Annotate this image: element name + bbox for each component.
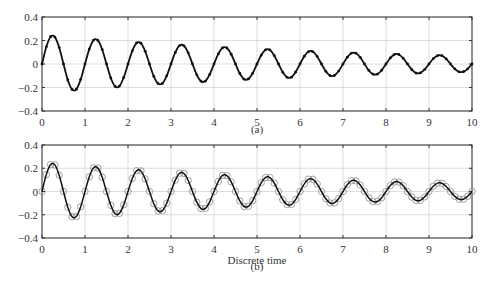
data-marker <box>101 48 104 51</box>
data-marker <box>316 55 319 58</box>
data-marker <box>402 57 405 60</box>
data-marker <box>66 79 69 82</box>
data-marker <box>419 72 422 75</box>
data-marker <box>359 56 362 59</box>
data-marker <box>234 63 237 66</box>
data-marker <box>299 63 302 66</box>
data-marker <box>385 63 388 66</box>
chart-figure: 012345678910−0.4−0.200.20.4(a) 012345678… <box>0 0 491 293</box>
data-marker <box>441 54 444 57</box>
data-marker <box>152 75 155 78</box>
x-tick-label: 7 <box>340 243 346 255</box>
y-tick-label: −0.4 <box>18 105 38 117</box>
data-marker <box>466 67 469 70</box>
data-marker <box>88 48 91 51</box>
y-tick-label: −0.4 <box>18 232 38 244</box>
data-marker <box>109 77 112 80</box>
data-marker <box>269 49 272 52</box>
data-marker <box>92 39 95 42</box>
data-marker <box>393 53 396 56</box>
y-tick-label: 0 <box>33 186 39 198</box>
data-marker <box>208 73 211 76</box>
data-marker <box>195 73 198 76</box>
data-marker <box>290 76 293 79</box>
x-tick-label: 4 <box>211 116 217 128</box>
data-marker <box>342 63 345 66</box>
data-marker <box>346 56 349 59</box>
x-tick-label: 1 <box>82 243 88 255</box>
x-tick-label: 1 <box>82 116 88 128</box>
data-marker <box>71 88 74 91</box>
data-marker <box>415 72 418 75</box>
data-marker <box>178 44 181 47</box>
data-marker <box>226 47 229 50</box>
data-marker <box>350 52 353 55</box>
subplot-caption: (a) <box>251 123 264 136</box>
data-marker <box>294 71 297 74</box>
data-marker <box>410 68 413 71</box>
x-tick-label: 0 <box>39 116 45 128</box>
data-marker <box>458 70 461 73</box>
data-marker <box>131 49 134 52</box>
data-marker <box>140 42 143 45</box>
subplot-b: 012345678910−0.4−0.200.20.4Discrete time… <box>18 139 478 273</box>
data-marker <box>406 63 409 66</box>
data-marker <box>449 63 452 66</box>
y-tick-label: −0.2 <box>18 82 38 94</box>
x-tick-label: 3 <box>168 243 174 255</box>
data-marker <box>445 58 448 61</box>
x-tick-label: 7 <box>340 116 346 128</box>
x-tick-label: 2 <box>125 243 131 255</box>
data-marker <box>191 63 194 66</box>
data-marker <box>200 80 203 83</box>
data-marker <box>256 63 259 66</box>
data-marker <box>462 70 465 73</box>
data-marker <box>118 85 121 88</box>
x-tick-label: 9 <box>426 116 432 128</box>
data-marker <box>423 68 426 71</box>
data-marker <box>183 44 186 47</box>
data-marker <box>148 63 151 66</box>
data-marker <box>376 73 379 76</box>
data-marker <box>79 78 82 81</box>
data-marker <box>389 57 392 60</box>
data-marker <box>75 88 78 91</box>
subplot-a: 012345678910−0.4−0.200.20.4(a) <box>18 11 478 136</box>
data-marker <box>41 63 44 66</box>
data-marker <box>286 76 289 79</box>
data-marker <box>243 78 246 81</box>
data-marker <box>251 72 254 75</box>
data-marker <box>49 35 52 38</box>
data-marker <box>114 85 117 88</box>
data-marker <box>432 57 435 60</box>
data-marker <box>324 70 327 73</box>
y-tick-label: 0.4 <box>24 139 38 151</box>
data-marker <box>213 63 216 66</box>
data-marker <box>97 39 100 42</box>
x-tick-label: 6 <box>297 243 303 255</box>
data-marker <box>281 71 284 74</box>
data-marker <box>260 54 263 57</box>
data-marker <box>355 52 358 55</box>
x-tick-label: 10 <box>467 243 479 255</box>
data-marker <box>54 36 57 39</box>
x-tick-label: 9 <box>426 243 432 255</box>
y-tick-label: 0.2 <box>24 162 38 174</box>
data-marker <box>45 46 48 49</box>
data-marker <box>230 53 233 56</box>
data-marker <box>187 51 190 54</box>
subplot-caption: (b) <box>251 260 264 273</box>
x-tick-label: 10 <box>467 116 479 128</box>
y-tick-label: −0.2 <box>18 209 38 221</box>
data-marker <box>204 80 207 83</box>
data-marker <box>221 46 224 49</box>
x-tick-label: 2 <box>125 116 131 128</box>
data-marker <box>303 55 306 58</box>
data-marker <box>453 68 456 71</box>
x-tick-label: 3 <box>168 116 174 128</box>
data-marker <box>333 74 336 77</box>
data-marker <box>238 72 241 75</box>
data-marker <box>122 76 125 79</box>
x-tick-label: 8 <box>383 243 389 255</box>
data-marker <box>84 63 87 66</box>
